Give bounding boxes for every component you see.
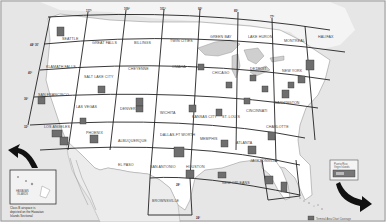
lat-24: 24°	[196, 216, 200, 220]
label-cheyenne[interactable]: CHEYENNE	[128, 67, 149, 71]
tac-memphis[interactable]	[221, 140, 228, 147]
legend-tac-text: Terminal Area Chart Coverage	[316, 217, 351, 221]
label-wichita[interactable]: WICHITA	[160, 111, 176, 115]
hawaii-inset-box[interactable]	[10, 170, 56, 204]
tac-washington[interactable]	[282, 90, 289, 98]
lon-77: 77°	[270, 15, 274, 19]
label-chicago[interactable]: CHICAGO	[212, 71, 230, 75]
label-st-louis[interactable]: ST. LOUIS	[222, 115, 240, 119]
tac-new-york[interactable]	[298, 76, 305, 83]
label-cincinnati[interactable]: CINCINNATI	[246, 109, 267, 113]
tac-los-angeles[interactable]	[52, 130, 62, 137]
sectional-chart-index-map: SEATTLE GREAT FALLS BILLINGS TWIN CITIES…	[0, 0, 386, 222]
label-montreal[interactable]: MONTREAL	[284, 39, 305, 43]
label-denver[interactable]: DENVER	[120, 107, 136, 111]
label-new-york[interactable]: NEW YORK	[282, 69, 303, 73]
maui	[31, 183, 33, 185]
tac-seattle[interactable]	[57, 27, 64, 36]
tac-new-orleans[interactable]	[218, 172, 226, 178]
kauai	[17, 176, 19, 178]
label-salt-lake-city[interactable]: SALT LAKE CITY	[84, 75, 114, 79]
tac-boston[interactable]	[306, 60, 314, 70]
lat-40: 40°	[28, 71, 32, 75]
tac-philadelphia[interactable]	[288, 82, 294, 88]
tac-cincinnati[interactable]	[244, 98, 250, 104]
label-san-francisco[interactable]: SAN FRANCISCO	[38, 93, 69, 97]
tac-dallas[interactable]	[174, 147, 184, 157]
lat-44: 44° 30'	[30, 43, 39, 47]
label-los-angeles[interactable]: LOS ANGELES	[44, 125, 71, 129]
tac-kansas-city[interactable]	[189, 105, 196, 112]
tac-detroit[interactable]	[250, 75, 256, 81]
tac-tampa-orlando[interactable]	[265, 176, 273, 184]
label-houston[interactable]: HOUSTON	[186, 165, 205, 169]
label-klamath-falls[interactable]: KLAMATH FALLS	[46, 65, 76, 69]
label-great-falls[interactable]: GREAT FALLS	[92, 41, 117, 45]
tac-charlotte[interactable]	[268, 132, 275, 140]
tac-chicago[interactable]	[226, 82, 232, 88]
label-omaha[interactable]: OMAHA	[172, 65, 186, 69]
tac-phoenix[interactable]	[90, 135, 98, 143]
map-canvas: SEATTLE GREAT FALLS BILLINGS TWIN CITIES…	[0, 0, 386, 222]
label-new-orleans[interactable]: NEW ORLEANS	[222, 181, 250, 185]
hawaii-note-3: Islands Sectional	[10, 214, 33, 218]
tac-miami[interactable]	[281, 182, 287, 192]
oahu	[25, 180, 27, 182]
label-halifax[interactable]: HALIFAX	[318, 35, 334, 39]
label-washington[interactable]: WASHINGTON	[274, 101, 300, 105]
label-kansas-city[interactable]: KANSAS CITY	[192, 115, 217, 119]
label-lake-huron[interactable]: LAKE HURON	[248, 35, 273, 39]
legend-tac-swatch	[308, 216, 314, 220]
label-green-bay[interactable]: GREEN BAY	[210, 35, 232, 39]
tac-colorado-springs[interactable]	[136, 106, 143, 112]
tac-minneapolis[interactable]	[198, 64, 204, 70]
label-dallas[interactable]: DALLAS-FT WORTH	[160, 133, 196, 137]
label-memphis[interactable]: MEMPHIS	[200, 137, 218, 141]
lon-101: 101°	[160, 7, 166, 11]
tac-las-vegas[interactable]	[80, 118, 86, 124]
tac-houston[interactable]	[186, 170, 194, 178]
tac-atlanta[interactable]	[248, 146, 256, 154]
label-phoenix[interactable]: PHOENIX	[86, 131, 103, 135]
tac-salt-lake[interactable]	[98, 86, 105, 93]
puerto-rico-inset[interactable]: Puerto Rico Virgin Islands	[330, 160, 358, 180]
label-seattle[interactable]: SEATTLE	[62, 37, 79, 41]
label-detroit[interactable]: DETROIT	[250, 67, 267, 71]
lon-93: 93°	[198, 7, 202, 11]
lat-28: 28°	[176, 183, 180, 187]
lat-32: 32°	[24, 125, 28, 129]
label-brownsville[interactable]: BROWNSVILLE	[152, 199, 180, 203]
label-el-paso[interactable]: EL PASO	[118, 163, 134, 167]
label-billings[interactable]: BILLINGS	[134, 41, 151, 45]
label-albuquerque[interactable]: ALBUQUERQUE	[118, 139, 147, 143]
virgin-islands-title: Virgin Islands	[334, 165, 350, 169]
tac-denver[interactable]	[136, 98, 143, 106]
label-twin-cities[interactable]: TWIN CITIES	[170, 39, 193, 43]
label-charlotte[interactable]: CHARLOTTE	[266, 125, 289, 129]
lon-117: 117°	[86, 9, 92, 13]
tac-san-diego[interactable]	[60, 137, 68, 145]
lon-109: 109°	[124, 7, 130, 11]
puerto-rico-island	[336, 172, 344, 175]
label-atlanta[interactable]: ATLANTA	[236, 141, 253, 145]
lon-85: 85°	[234, 9, 238, 13]
lat-36: 36°	[24, 97, 28, 101]
hawaii-label-2: ISLANDS	[17, 192, 28, 196]
tac-san-francisco[interactable]	[38, 97, 45, 104]
tac-cleveland[interactable]	[262, 86, 268, 92]
label-jacksonville[interactable]: JACKSONVILLE	[250, 159, 278, 163]
label-san-antonio[interactable]: SAN ANTONIO	[150, 165, 176, 169]
label-las-vegas[interactable]: LAS VEGAS	[76, 105, 98, 109]
